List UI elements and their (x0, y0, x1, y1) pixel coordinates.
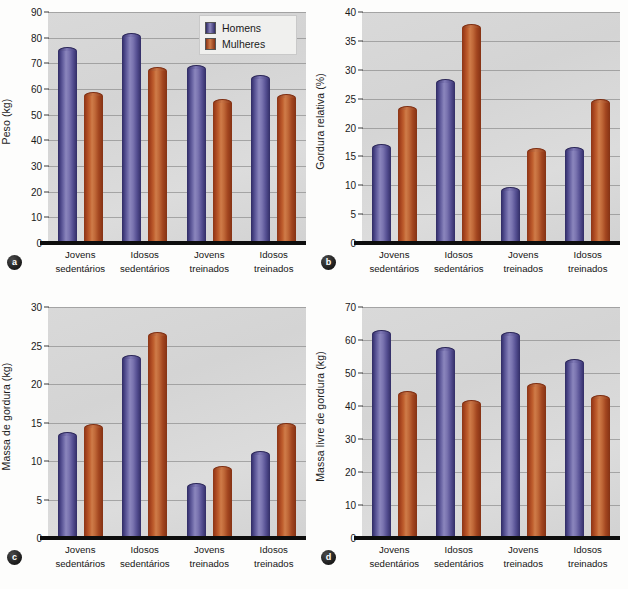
bar-homens-4 (565, 147, 584, 243)
y-axis-label: Gordura relativa (%) (314, 0, 330, 243)
y-tick-label: 5 (330, 209, 356, 220)
panel-badge-a: a (7, 255, 22, 270)
x-tick-label: Jovenstreinados (504, 543, 543, 571)
bar-body (501, 336, 520, 538)
x-tick-line2: sedentários (120, 262, 170, 276)
bar-mulheres-4 (591, 99, 610, 243)
bar-homens-3 (501, 187, 520, 243)
bar-homens-3 (187, 483, 206, 538)
bar-body (187, 487, 206, 538)
y-axis-ticks: 0102030405060708090 (16, 0, 42, 244)
y-tick-mark (44, 114, 49, 115)
bar-mulheres-3 (213, 466, 232, 538)
x-tick-label: Idosossedentários (434, 248, 484, 276)
y-tick-label: 80 (16, 32, 42, 43)
y-axis-label: Peso (kg) (0, 0, 16, 243)
y-axis-label: Massa livre de gordura (kg) (314, 295, 330, 538)
bar-body (58, 51, 77, 243)
figure-page: Peso (kg)0102030405060708090Jovenssedent… (0, 0, 628, 589)
y-tick-label: 90 (16, 7, 42, 18)
y-tick-label: 40 (330, 7, 356, 18)
bar-body (122, 359, 141, 538)
x-tick-line1: Jovens (190, 248, 229, 262)
gridline (48, 12, 306, 13)
bar-body (462, 28, 481, 243)
legend-item-women: Mulheres (205, 36, 291, 51)
y-tick-label: 25 (330, 93, 356, 104)
y-tick-mark (358, 185, 363, 186)
bar-mulheres-2 (148, 67, 167, 243)
y-tick-label: 40 (16, 135, 42, 146)
legend-item-men: Homens (205, 20, 291, 35)
bar-mulheres-1 (398, 391, 417, 538)
plot-area (362, 307, 620, 538)
y-axis-ticks: 010203040506070 (330, 295, 356, 539)
bar-body (501, 191, 520, 243)
panel-badge-d: d (321, 550, 336, 565)
x-tick-label: Idosostreinados (254, 543, 293, 571)
bar-mulheres-2 (148, 332, 167, 538)
y-tick-mark (358, 406, 363, 407)
bar-mulheres-1 (398, 106, 417, 243)
x-tick-line2: treinados (504, 262, 543, 276)
bar-body (277, 98, 296, 243)
y-tick-mark (358, 156, 363, 157)
bar-body (527, 387, 546, 538)
legend-label: Mulheres (222, 38, 265, 50)
bar-body (398, 395, 417, 538)
y-tick-mark (358, 472, 363, 473)
bar-body (462, 404, 481, 538)
bar-body (251, 79, 270, 243)
y-axis-ticks: 0510152025303540 (330, 0, 356, 244)
x-tick-line1: Idosos (434, 248, 484, 262)
bar-homens-2 (436, 347, 455, 538)
bar-mulheres-1 (84, 92, 103, 243)
y-tick-mark (44, 12, 49, 13)
y-tick-mark (44, 307, 49, 308)
bar-body (148, 336, 167, 538)
x-tick-line2: sedentários (55, 262, 105, 276)
y-tick-label: 10 (330, 180, 356, 191)
y-tick-mark (358, 439, 363, 440)
x-tick-label: Jovenstreinados (190, 543, 229, 571)
bar-mulheres-4 (591, 395, 610, 538)
x-tick-line1: Idosos (254, 248, 293, 262)
y-tick-mark (44, 461, 49, 462)
x-tick-label: Idosossedentários (120, 543, 170, 571)
x-tick-line2: sedentários (434, 262, 484, 276)
y-axis-label: Massa de gordura (kg) (0, 295, 16, 538)
x-axis-baseline (40, 241, 306, 245)
bar-homens-2 (436, 79, 455, 243)
y-tick-label: 40 (330, 401, 356, 412)
bar-body (591, 103, 610, 243)
x-axis-labels: JovenssedentáriosIdosossedentáriosJovens… (48, 543, 306, 583)
x-tick-line2: treinados (190, 557, 229, 571)
y-tick-mark (358, 12, 363, 13)
bar-body (277, 427, 296, 539)
x-axis-labels: JovenssedentáriosIdosossedentáriosJovens… (362, 543, 620, 583)
x-tick-line1: Jovens (369, 543, 419, 557)
bar-body (591, 399, 610, 538)
bar-homens-2 (122, 33, 141, 243)
y-tick-label: 60 (16, 84, 42, 95)
bar-body (565, 363, 584, 538)
x-tick-line1: Jovens (55, 543, 105, 557)
x-tick-label: Jovenssedentários (369, 248, 419, 276)
y-tick-mark (358, 505, 363, 506)
legend-swatch-men-icon (205, 22, 216, 34)
y-tick-mark (358, 98, 363, 99)
y-tick-mark (358, 69, 363, 70)
x-tick-label: Idosostreinados (254, 248, 293, 276)
x-tick-line2: treinados (254, 557, 293, 571)
bar-homens-2 (122, 355, 141, 538)
x-tick-label: Jovenstreinados (190, 248, 229, 276)
x-tick-line1: Jovens (190, 543, 229, 557)
plot-area (48, 307, 306, 538)
x-tick-line1: Idosos (568, 543, 607, 557)
y-tick-label: 0 (330, 533, 356, 544)
y-tick-label: 30 (330, 64, 356, 75)
y-tick-label: 35 (330, 35, 356, 46)
x-tick-line2: treinados (568, 262, 607, 276)
x-tick-line1: Jovens (504, 248, 543, 262)
x-tick-line1: Idosos (120, 248, 170, 262)
